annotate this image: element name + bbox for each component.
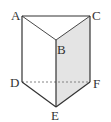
label-a: A (11, 8, 21, 23)
shaded-face-bcfe (56, 16, 90, 107)
prism-svg: A C B D F E (0, 0, 111, 122)
prism-diagram: A C B D F E (0, 0, 111, 122)
label-e: E (51, 108, 59, 122)
edge-ab (22, 16, 56, 40)
label-c: C (92, 8, 101, 23)
label-b: B (57, 42, 66, 57)
edge-de (22, 82, 56, 107)
label-f: F (93, 76, 100, 91)
label-d: D (10, 75, 19, 90)
